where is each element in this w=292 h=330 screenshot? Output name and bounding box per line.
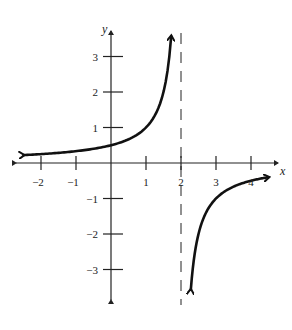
curve-right-branch	[191, 177, 269, 290]
x-tick-label: 3	[213, 176, 219, 188]
x-axis-label: x	[279, 164, 286, 178]
y-tick-label: 1	[93, 122, 99, 134]
y-tick-label: 3	[93, 51, 99, 63]
x-tick-label: 4	[248, 176, 254, 188]
x-tick-label: −2	[32, 176, 44, 188]
y-tick-label: 2	[93, 86, 99, 98]
x-tick-label: 1	[143, 176, 149, 188]
x-tick-label: 2	[178, 176, 184, 188]
y-tick-label: −2	[86, 228, 98, 240]
y-tick-label: −3	[86, 264, 98, 276]
y-tick-label: −1	[86, 193, 98, 205]
y-axis-label: y	[101, 22, 108, 36]
chart: −2−11234321−1−2−3xy	[0, 0, 292, 330]
x-tick-label: −1	[67, 176, 79, 188]
